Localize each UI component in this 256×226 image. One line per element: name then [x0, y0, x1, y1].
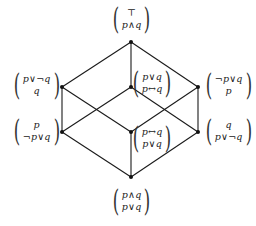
left-paren: ( — [113, 186, 119, 216]
formula-row-2: ¬p∨q — [23, 131, 51, 144]
formula-row-1: ¬p∨q — [215, 73, 243, 86]
node-bottom — [129, 175, 133, 179]
right-paren: ) — [144, 186, 150, 216]
formula-stack: q p∨¬q — [215, 119, 243, 144]
node-right-upper — [196, 85, 200, 89]
left-paren: ( — [14, 70, 20, 100]
formula-stack: p∨¬q q — [23, 73, 51, 98]
edges — [62, 42, 198, 177]
formula-stack: p∨q p↔q — [142, 71, 163, 96]
right-paren: ) — [165, 68, 171, 98]
label-right-upper: ( ¬p∨q p ) — [203, 70, 254, 100]
nodes — [60, 40, 200, 179]
formula-row-2: p — [226, 85, 232, 98]
formula-stack: p↔q p∨q — [142, 126, 163, 151]
formula-row-2: p∨¬q — [215, 131, 243, 144]
left-paren: ( — [133, 68, 139, 98]
formula-row-2: p∧q — [122, 19, 142, 32]
formula-stack: p∧q p∨q — [122, 189, 142, 214]
formula-row-2: p∨q — [122, 201, 142, 214]
formula-row-1: p∧q — [122, 189, 142, 202]
label-left-lower: ( p ¬p∨q ) — [11, 116, 62, 146]
left-paren: ( — [113, 4, 119, 34]
right-paren: ) — [53, 116, 59, 146]
formula-row-2: p↔q — [142, 83, 163, 96]
right-paren: ) — [144, 4, 150, 34]
label-center-lower: ( p↔q p∨q ) — [130, 123, 174, 153]
left-paren: ( — [14, 116, 20, 146]
label-bottom: ( p∧q p∨q ) — [110, 186, 153, 216]
label-top: ( ⊤ p∧q ) — [110, 4, 153, 34]
formula-row-1: p↔q — [142, 126, 163, 139]
right-paren: ) — [53, 70, 59, 100]
edge-left-lower-bottom — [62, 132, 131, 177]
formula-row-2: q — [34, 85, 40, 98]
right-paren: ) — [245, 70, 251, 100]
formula-row-1: p — [34, 119, 40, 132]
formula-row-1: ⊤ — [127, 7, 136, 20]
edge-top-left-upper — [62, 42, 131, 87]
formula-row-1: q — [226, 119, 232, 132]
right-paren: ) — [245, 116, 251, 146]
left-paren: ( — [206, 70, 212, 100]
node-right-lower — [196, 130, 200, 134]
right-paren: ) — [165, 123, 171, 153]
left-paren: ( — [206, 116, 212, 146]
left-paren: ( — [133, 123, 139, 153]
formula-stack: ⊤ p∧q — [122, 7, 142, 32]
formula-row-2: p∨q — [142, 138, 162, 151]
formula-row-1: p∨¬q — [23, 73, 51, 86]
formula-stack: p ¬p∨q — [23, 119, 51, 144]
label-left-upper: ( p∨¬q q ) — [11, 70, 62, 100]
formula-stack: ¬p∨q p — [215, 73, 243, 98]
label-center-upper: ( p∨q p↔q ) — [130, 68, 174, 98]
node-top — [129, 40, 133, 44]
label-right-lower: ( q p∨¬q ) — [203, 116, 254, 146]
formula-row-1: p∨q — [142, 71, 162, 84]
